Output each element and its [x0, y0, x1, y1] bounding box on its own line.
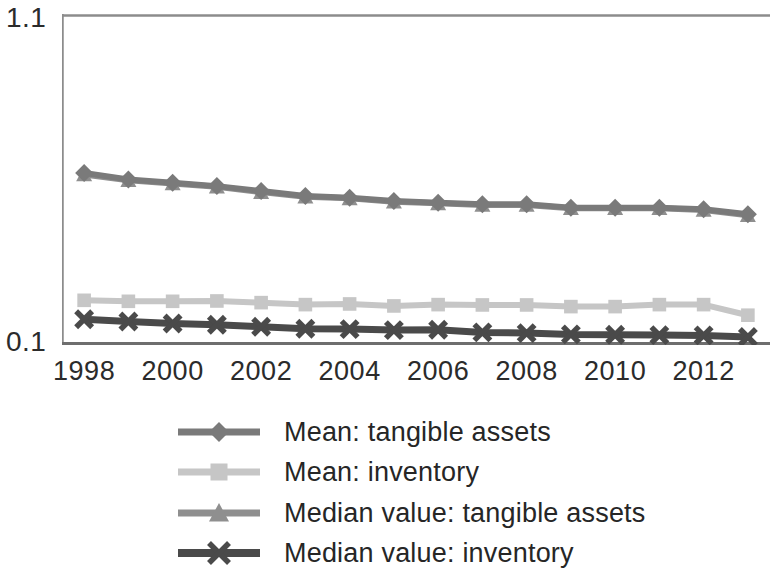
legend-item: Median value: tangible assets	[176, 494, 646, 532]
square-marker-icon	[176, 457, 262, 487]
x-axis-tick-label-2000: 2000	[142, 356, 204, 387]
x-axis-tick-label-2004: 2004	[319, 356, 381, 387]
cross-marker-icon	[176, 538, 262, 568]
plot-area	[62, 14, 770, 345]
legend-label: Mean: inventory	[284, 457, 479, 488]
diamond-marker-icon	[176, 417, 262, 447]
chart-legend: Mean: tangible assetsMean: inventoryMedi…	[0, 405, 772, 576]
series-triangle	[76, 167, 756, 223]
legend-item: Median value: inventory	[176, 534, 574, 572]
x-axis-tick-label-2012: 2012	[673, 356, 735, 387]
legend-item: Mean: inventory	[176, 453, 479, 491]
triangle-marker-icon	[176, 498, 262, 528]
x-axis-tick-label-2010: 2010	[584, 356, 646, 387]
line-chart-svg	[62, 14, 770, 345]
legend-item: Mean: tangible assets	[176, 413, 551, 451]
x-axis-tick-label-2002: 2002	[230, 356, 292, 387]
y-axis-top-tick-label: 1.1	[6, 2, 46, 34]
x-axis-tick-label-2006: 2006	[407, 356, 469, 387]
x-axis-tick-label-2008: 2008	[496, 356, 558, 387]
legend-label: Median value: inventory	[284, 538, 574, 569]
legend-label: Median value: tangible assets	[284, 498, 646, 529]
x-axis-tick-labels: 19982000200220042006200820102012	[0, 356, 772, 392]
y-axis-bottom-tick-label: 0.1	[6, 326, 46, 358]
chart-figure: 1.1 0.1 19982000200220042006200820102012…	[0, 0, 772, 576]
x-axis-tick-label-1998: 1998	[53, 356, 115, 387]
series-cross	[76, 311, 756, 345]
legend-label: Mean: tangible assets	[284, 417, 551, 448]
